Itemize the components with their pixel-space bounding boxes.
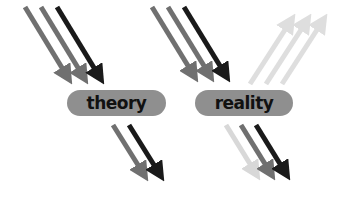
theory-outgoing-arrows: [113, 125, 159, 173]
theory-outgoing-arrow-1: [113, 125, 143, 173]
theory-label-text: theory: [87, 93, 147, 113]
reality-outgoing-arrow-2: [241, 125, 270, 172]
reality-outgoing-arrows: [226, 125, 285, 172]
theory-incoming-arrows: [25, 7, 99, 76]
reality-outgoing-arrow-1: [226, 125, 255, 172]
reality-outgoing-arrow-3: [256, 125, 285, 172]
reality-label: reality: [195, 90, 293, 116]
reality-label-text: reality: [215, 93, 274, 113]
theory-label: theory: [67, 90, 166, 116]
reality-incoming-arrows: [152, 7, 225, 74]
theory-outgoing-arrow-2: [129, 125, 159, 173]
reality-reflected-arrows: [250, 22, 322, 84]
